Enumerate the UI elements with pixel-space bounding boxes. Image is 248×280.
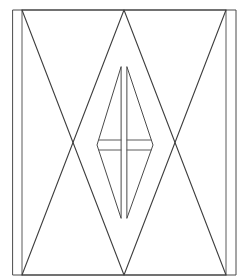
diagram-canvas xyxy=(0,0,248,280)
outer-frame xyxy=(13,10,236,275)
diamond-right-half xyxy=(127,67,153,218)
down-triangle xyxy=(22,10,226,275)
up-triangle xyxy=(22,10,226,275)
diamond-left-half xyxy=(97,67,121,218)
